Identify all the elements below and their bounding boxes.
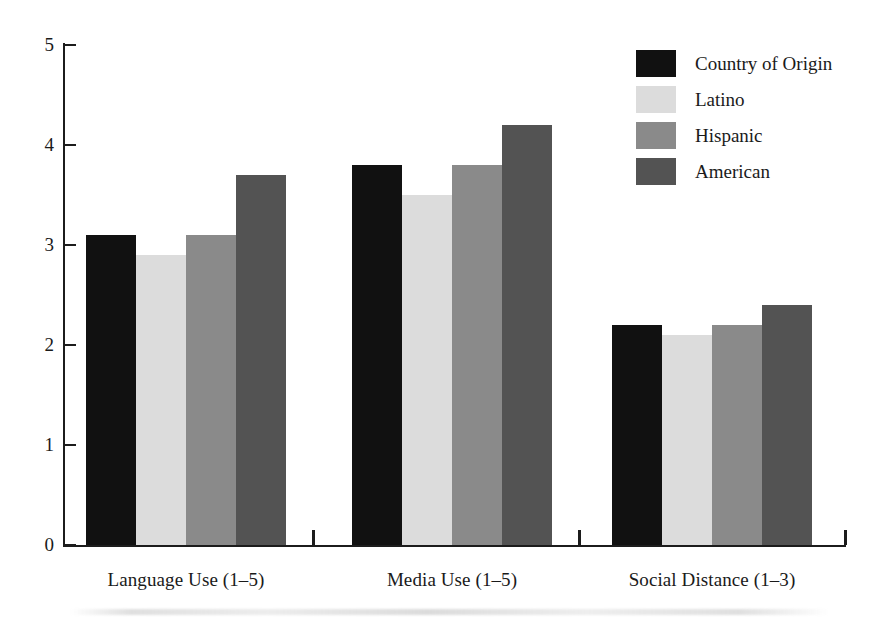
bar: [612, 325, 662, 545]
y-axis-tick: [65, 144, 76, 146]
x-axis-group-label: Media Use (1–5): [312, 570, 592, 591]
legend-item: American: [636, 153, 876, 189]
y-axis-tick: [65, 544, 76, 546]
legend-item-label: Latino: [695, 90, 745, 109]
legend-swatch-icon: [636, 122, 676, 149]
y-axis-tick-label: 1: [20, 435, 54, 454]
legend-item: Country of Origin: [636, 45, 876, 81]
y-axis-line: [63, 43, 65, 547]
bar: [86, 235, 136, 545]
y-axis-tick: [65, 244, 76, 246]
x-axis-line: [63, 545, 846, 547]
y-axis-tick-label: 0: [20, 535, 54, 554]
y-axis-tick-label: 5: [20, 35, 54, 54]
y-axis-tick-label: 4: [20, 135, 54, 154]
bar: [762, 305, 812, 545]
bar: [402, 195, 452, 545]
legend-swatch-icon: [636, 50, 676, 77]
legend-item: Hispanic: [636, 117, 876, 153]
x-axis-tick: [312, 530, 315, 545]
y-axis-tick: [65, 344, 76, 346]
x-axis-group-label: Social Distance (1–3): [572, 570, 852, 591]
bar: [452, 165, 502, 545]
bar: [136, 255, 186, 545]
legend-item-label: Country of Origin: [695, 54, 832, 73]
y-axis-tick-label: 2: [20, 335, 54, 354]
bar: [662, 335, 712, 545]
bar: [712, 325, 762, 545]
x-axis-tick: [844, 530, 847, 545]
legend-swatch-icon: [636, 158, 676, 185]
bar: [236, 175, 286, 545]
bar: [352, 165, 402, 545]
grouped-bar-chart: 012345 Language Use (1–5)Media Use (1–5)…: [0, 0, 881, 621]
legend-item-label: Hispanic: [695, 126, 763, 145]
legend: Country of OriginLatinoHispanicAmerican: [636, 45, 876, 189]
x-axis-group-label: Language Use (1–5): [46, 570, 326, 591]
legend-item: Latino: [636, 81, 876, 117]
y-axis-tick: [65, 444, 76, 446]
y-axis-tick-label: 3: [20, 235, 54, 254]
bar: [502, 125, 552, 545]
x-axis-tick: [578, 530, 581, 545]
y-axis-tick: [65, 44, 76, 46]
bar: [186, 235, 236, 545]
legend-swatch-icon: [636, 86, 676, 113]
legend-item-label: American: [695, 162, 770, 181]
